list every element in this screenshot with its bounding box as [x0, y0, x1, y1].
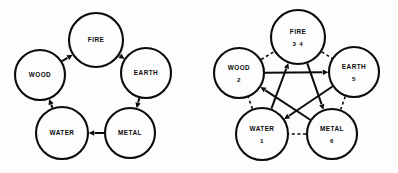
- node-circle-water: [236, 108, 288, 160]
- edge-wood-to-fire: [261, 52, 274, 60]
- edge-fire-to-earth: [322, 52, 332, 58]
- arrowhead-earth-to-metal: [135, 102, 140, 108]
- overcoming-cycle-diagram: FIRE3 4EARTH5METAL6WATER1WOOD2: [199, 0, 398, 173]
- node-circle-fire: [271, 10, 325, 64]
- edge-wood-to-earth: [265, 72, 322, 73]
- node-label-water: WATER: [250, 125, 275, 132]
- node-number-metal: 6: [330, 137, 334, 144]
- arrowhead-water-to-wood: [49, 99, 54, 105]
- node-layer: FIRE3 4EARTH5METAL6WATER1WOOD2: [214, 10, 379, 160]
- node-label-metal: METAL: [320, 125, 344, 132]
- node-circle-metal: [307, 109, 357, 159]
- node-label-fire: FIRE: [290, 28, 307, 35]
- node-earth[interactable]: EARTH: [121, 48, 171, 98]
- panel-generating-cycle: FIREEARTHMETALWATERWOOD: [0, 0, 199, 173]
- node-water[interactable]: WATER1: [236, 108, 288, 160]
- node-wood[interactable]: WOOD2: [214, 48, 264, 98]
- panel-overcoming-cycle: FIRE3 4EARTH5METAL6WATER1WOOD2: [199, 0, 398, 173]
- node-label-wood: WOOD: [29, 71, 51, 78]
- node-circle-earth: [329, 47, 379, 97]
- arrowhead-wood-to-earth: [323, 70, 329, 75]
- node-label-earth: EARTH: [134, 69, 158, 76]
- node-number-water: 1: [260, 137, 264, 144]
- node-label-fire: FIRE: [88, 36, 105, 43]
- node-label-earth: EARTH: [342, 63, 366, 70]
- edge-wood-to-fire: [62, 58, 67, 61]
- arrowhead-water-to-fire: [284, 63, 289, 69]
- node-water[interactable]: WATER: [36, 107, 88, 159]
- node-number-earth: 5: [352, 75, 356, 82]
- node-number-wood: 2: [237, 76, 241, 83]
- node-wood[interactable]: WOOD: [15, 50, 65, 100]
- node-number-fire: 3 4: [292, 40, 303, 47]
- edge-water-to-wood: [51, 105, 52, 108]
- arrowhead-fire-to-metal: [319, 104, 324, 110]
- node-label-metal: METAL: [118, 129, 142, 136]
- figure-root: FIREEARTHMETALWATERWOOD FIRE3 4EARTH5MET…: [0, 0, 398, 173]
- edge-earth-to-metal: [341, 97, 346, 110]
- node-metal[interactable]: METAL: [105, 108, 155, 158]
- node-layer: FIREEARTHMETALWATERWOOD: [15, 13, 171, 159]
- edge-earth-to-metal: [138, 98, 139, 102]
- node-metal[interactable]: METAL6: [307, 109, 357, 159]
- arrowhead-metal-to-water: [89, 130, 95, 135]
- node-label-wood: WOOD: [228, 64, 250, 71]
- node-fire[interactable]: FIRE: [69, 13, 123, 67]
- node-fire[interactable]: FIRE3 4: [271, 10, 325, 64]
- node-label-water: WATER: [50, 129, 75, 136]
- node-earth[interactable]: EARTH5: [329, 47, 379, 97]
- generating-cycle-diagram: FIREEARTHMETALWATERWOOD: [0, 0, 199, 173]
- node-circle-wood: [214, 48, 264, 98]
- arrowhead-wood-to-fire: [66, 55, 72, 60]
- edge-water-to-wood: [248, 97, 252, 108]
